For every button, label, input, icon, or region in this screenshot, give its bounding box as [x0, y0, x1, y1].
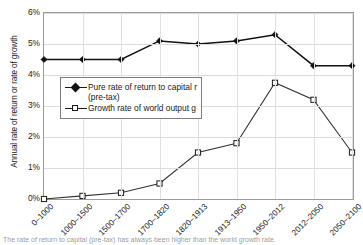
open-square-marker-icon: [64, 104, 88, 114]
legend-label-r-line1: Pure rate of return to capital r: [88, 82, 197, 92]
figure-caption: The rate of return to capital (pre-tax) …: [3, 236, 359, 245]
chart-legend: Pure rate of return to capital r (pre-ta…: [60, 77, 202, 119]
legend-label-g: Growth rate of world output g: [88, 103, 196, 113]
legend-item-g: Growth rate of world output g: [64, 103, 197, 114]
filled-diamond-marker-icon: [64, 83, 88, 93]
legend-item-r: Pure rate of return to capital r (pre-ta…: [64, 82, 197, 102]
legend-label-r: Pure rate of return to capital r (pre-ta…: [88, 82, 197, 102]
legend-label-r-line2: (pre-tax): [88, 92, 120, 102]
